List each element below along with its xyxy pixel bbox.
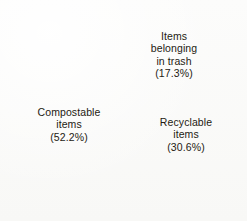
pie-slice-compostable-items <box>25 3 145 215</box>
pie-chart-figure: Items belonging in trash (17.3%) Recycla… <box>0 0 247 221</box>
pie-slice-group <box>25 3 237 215</box>
pie-chart-svg <box>0 0 247 221</box>
